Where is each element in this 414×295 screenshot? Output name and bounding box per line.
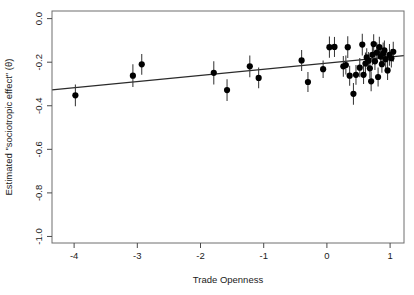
data-point bbox=[224, 87, 230, 93]
data-point bbox=[375, 74, 381, 80]
data-point bbox=[331, 44, 337, 50]
data-point bbox=[353, 72, 359, 78]
data-point bbox=[139, 61, 145, 67]
data-point bbox=[367, 65, 373, 71]
data-point bbox=[347, 73, 353, 79]
x-tick-label: 1 bbox=[387, 250, 392, 261]
y-tick-label: -0.4 bbox=[33, 98, 44, 114]
y-tick-label: 0.0 bbox=[33, 12, 44, 25]
data-point bbox=[299, 57, 305, 63]
data-point bbox=[381, 47, 387, 53]
data-point bbox=[372, 58, 378, 64]
data-point bbox=[247, 63, 253, 69]
data-point bbox=[388, 55, 394, 61]
y-tick-label: -0.8 bbox=[33, 185, 44, 201]
x-tick-label: 0 bbox=[324, 250, 329, 261]
y-axis-ticks: 0.0-0.2-0.4-0.6-0.8-1.0 bbox=[33, 12, 52, 245]
data-point bbox=[360, 72, 366, 78]
data-point bbox=[350, 91, 356, 97]
x-tick-label: -1 bbox=[259, 250, 267, 261]
plot-frame bbox=[52, 11, 404, 243]
data-point bbox=[359, 41, 365, 47]
data-point bbox=[320, 66, 326, 72]
regression-line-group bbox=[52, 56, 404, 90]
chart-figure: -4-3-2-101 0.0-0.2-0.4-0.6-0.8-1.0 Trade… bbox=[0, 0, 414, 295]
data-point bbox=[390, 49, 396, 55]
data-point bbox=[368, 78, 374, 84]
data-point bbox=[343, 62, 349, 68]
scatter-plot-canvas: -4-3-2-101 0.0-0.2-0.4-0.6-0.8-1.0 Trade… bbox=[0, 0, 414, 295]
data-point bbox=[357, 65, 363, 71]
data-point bbox=[384, 67, 390, 73]
y-tick-label: -1.0 bbox=[33, 228, 44, 244]
data-point bbox=[256, 75, 262, 81]
data-point bbox=[345, 44, 351, 50]
x-axis-ticks: -4-3-2-101 bbox=[70, 243, 393, 261]
y-tick-label: -0.2 bbox=[33, 54, 44, 70]
x-tick-label: -3 bbox=[133, 250, 141, 261]
x-tick-label: -4 bbox=[70, 250, 78, 261]
x-tick-label: -2 bbox=[196, 250, 204, 261]
data-point bbox=[379, 61, 385, 67]
data-point bbox=[305, 79, 311, 85]
data-point bbox=[371, 41, 377, 47]
data-point bbox=[72, 92, 78, 98]
x-axis-title: Trade Openness bbox=[193, 274, 264, 285]
data-point bbox=[366, 58, 372, 64]
y-axis-title: Estimated "sociotropic effect" (θ) bbox=[3, 59, 14, 196]
data-point bbox=[130, 73, 136, 79]
data-points-group bbox=[72, 41, 396, 98]
error-bars-group bbox=[75, 34, 393, 107]
data-point bbox=[211, 70, 217, 76]
y-tick-label: -0.6 bbox=[33, 141, 44, 157]
